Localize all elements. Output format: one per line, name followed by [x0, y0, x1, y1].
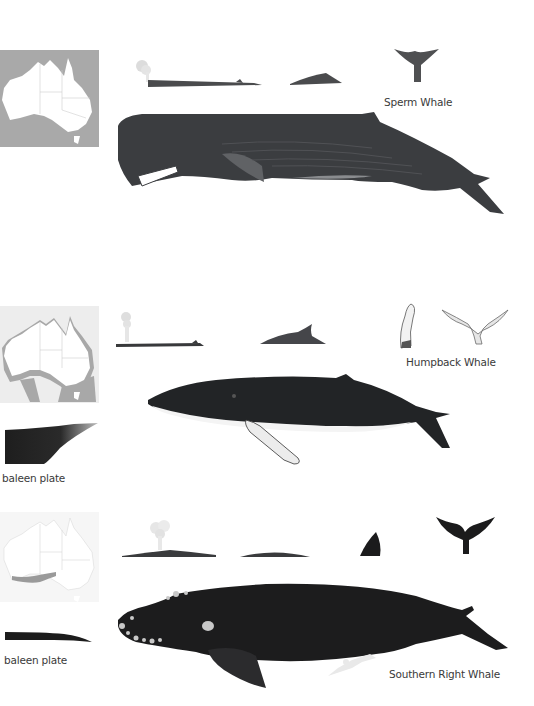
australia-map-icon [0, 306, 99, 403]
humpback-whale-dorsal-icon [258, 322, 328, 346]
southern-right-whale-range-map [0, 512, 99, 602]
sperm-whale-illustration [112, 108, 512, 218]
humpback-baleen-plate-drawing [4, 422, 100, 466]
southern-right-whale-label: Southern Right Whale [389, 668, 500, 680]
southern-right-baleen-plate-label: baleen plate [4, 654, 67, 666]
australia-map-icon [0, 50, 99, 147]
humpback-whale-blow-icon [114, 310, 206, 348]
humpback-baleen-plate-label: baleen plate [2, 472, 65, 484]
sperm-whale-blow-icon [132, 56, 264, 88]
australia-map-icon [0, 512, 99, 602]
southern-right-whale-back-icon [238, 548, 312, 558]
humpback-whale-range-map [0, 306, 99, 403]
southern-right-whale-blow-icon [120, 518, 218, 558]
humpback-tail-fluke-drawing [440, 306, 510, 346]
southern-right-baleen-plate-drawing [4, 630, 94, 644]
sperm-whale-fluke-icon [393, 48, 441, 84]
sperm-whale-label: Sperm Whale [384, 96, 452, 108]
southern-right-whale-illustration [116, 580, 512, 698]
humpback-pectoral-fin-drawing [397, 302, 419, 350]
southern-right-whale-tail-fluke-icon [435, 516, 497, 556]
humpback-whale-illustration [146, 372, 458, 468]
sperm-whale-hump-icon [288, 70, 344, 86]
sperm-whale-range-map [0, 50, 99, 147]
humpback-whale-label: Humpback Whale [406, 356, 496, 368]
southern-right-whale-fluke-tip-icon [358, 530, 384, 558]
